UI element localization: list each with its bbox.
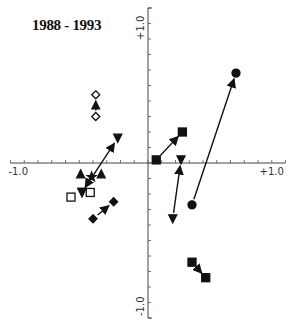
arrow-filled-square-upper [160,136,178,155]
square-marker-icon [188,258,196,266]
square-marker-icon [202,274,210,282]
arrow-filled-circle [194,79,234,199]
diamond-marker-icon [89,215,97,223]
axes: -1.0+1.0+1.0-1.0 [9,8,286,318]
arrows [85,79,234,273]
scatter-plot: -1.0+1.0+1.0-1.0 [0,0,295,325]
square-marker-icon [67,193,75,201]
circle-marker-icon [188,201,196,209]
triangle-down-marker-icon [78,188,86,196]
square-marker-icon [86,188,94,196]
arrow-filled-diamond [98,206,109,215]
y-min-label: -1.0 [135,296,146,316]
arrow-filled-triangle-right [174,166,181,213]
triangle-up-marker-icon [97,170,105,178]
triangle-down-marker-icon [114,134,122,142]
diamond-marker-icon [110,198,118,206]
markers [67,69,240,282]
square-marker-icon [152,156,160,164]
triangle-down-marker-icon [169,215,177,223]
diamond-marker-icon [92,91,100,99]
x-min-label: -1.0 [9,166,29,177]
diamond-marker-icon [92,113,100,121]
square-marker-icon [178,128,186,136]
y-max-label: +1.0 [135,16,146,40]
arrow-star-cluster [85,182,88,187]
circle-marker-icon [232,69,240,77]
x-max-label: +1.0 [260,166,284,177]
arrow-filled-square-lower [196,267,202,274]
triangle-up-marker-icon [77,170,85,178]
